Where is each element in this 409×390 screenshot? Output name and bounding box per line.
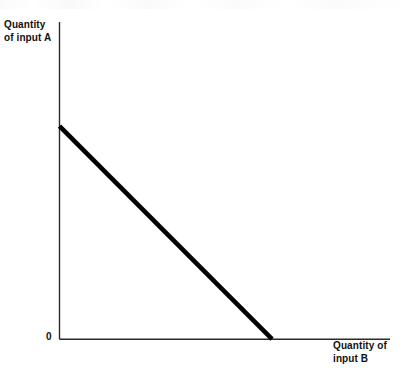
isoquant-line	[60, 126, 273, 339]
y-axis-label: Quantity of input A	[4, 18, 58, 44]
origin-tick-label: 0	[46, 331, 52, 343]
x-axis-label-line-2: input B	[333, 352, 407, 365]
y-axis-label-line-2: of input A	[4, 31, 58, 44]
data-series-group	[60, 126, 273, 339]
x-axis-label-line-1: Quantity of	[333, 339, 407, 352]
y-axis-label-line-1: Quantity	[4, 18, 58, 31]
x-axis-label: Quantity of input B	[333, 339, 407, 365]
chart-plot-area	[0, 0, 409, 390]
isoquant-chart-figure: Quantity of input A Quantity of input B …	[0, 0, 409, 390]
